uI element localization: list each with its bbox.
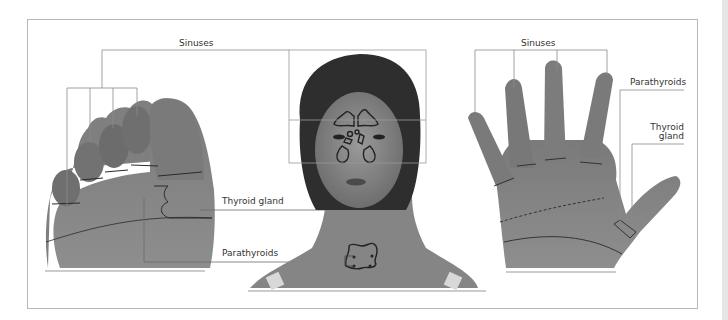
- label-parathyroids: Parathyroids: [222, 248, 278, 259]
- label-parathyroids-hand: Parathyroids: [630, 77, 686, 88]
- hand-illustration: [468, 61, 680, 273]
- label-sinuses-hand: Sinuses: [521, 38, 556, 49]
- label-thyroid-hand-line2: gland: [646, 131, 684, 142]
- label-sinuses-foot: Sinuses: [179, 38, 214, 49]
- reflexology-illustration: [0, 0, 728, 320]
- face-illustration: [248, 54, 486, 291]
- foot-illustration: [45, 98, 215, 271]
- label-thyroid-gland: Thyroid gland: [222, 196, 284, 207]
